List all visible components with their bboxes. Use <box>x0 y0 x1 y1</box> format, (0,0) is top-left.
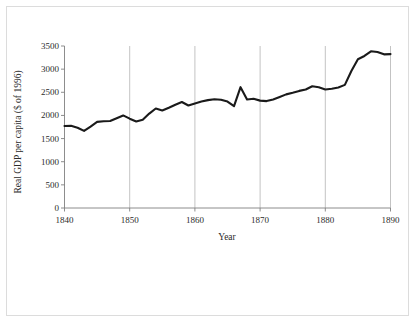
x-axis-tick-label: 1880 <box>316 216 334 225</box>
x-axis-tick-label: 1850 <box>121 216 139 225</box>
line-chart-svg <box>0 0 416 323</box>
y-axis-tick-label: 2500 <box>20 88 59 97</box>
y-axis-tick-label: 3000 <box>20 65 59 74</box>
data-series-line <box>65 51 391 131</box>
y-axis-tick-label: 1500 <box>20 134 59 143</box>
y-axis-tick-label: 500 <box>20 180 59 189</box>
x-axis-tick-label: 1890 <box>382 216 400 225</box>
y-axis-tick-label: 2000 <box>20 111 59 120</box>
x-axis-tick-label: 1860 <box>186 216 204 225</box>
chart-figure: Real GDP per capita ($ of 1996) Year 050… <box>0 0 416 323</box>
y-axis-tick-label: 3500 <box>20 42 59 51</box>
x-axis-tick-label: 1840 <box>56 216 74 225</box>
x-axis-tick-label: 1870 <box>251 216 269 225</box>
y-axis-tick-label: 0 <box>20 204 59 213</box>
y-axis-tick-label: 1000 <box>20 157 59 166</box>
plot-area: Real GDP per capita ($ of 1996) Year 050… <box>0 0 416 323</box>
x-axis-label: Year <box>64 232 390 242</box>
